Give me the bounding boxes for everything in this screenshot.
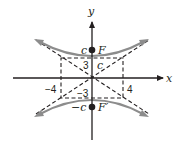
diagonal-c-label: c xyxy=(97,59,103,72)
focus-c-label-lower: −c xyxy=(71,101,86,114)
hyperbola-diagram: y x F c F′ −c c 3 −3 −4 4 xyxy=(0,0,178,145)
focus-c-label-upper: c xyxy=(81,44,87,57)
tick-label-bottom: −3 xyxy=(77,88,89,99)
lower-left-arrow-icon xyxy=(34,110,44,117)
upper-left-arrow-icon xyxy=(34,39,44,46)
focus-label-lower: F′ xyxy=(97,101,109,114)
tick-label-left: −4 xyxy=(45,84,57,95)
x-axis-label: x xyxy=(166,72,173,85)
tick-label-right: 4 xyxy=(127,84,133,95)
focus-label-upper: F xyxy=(97,44,106,57)
focus-point-lower xyxy=(89,104,96,111)
tick-label-top: 3 xyxy=(83,60,89,71)
y-axis-label: y xyxy=(87,5,95,18)
focus-point-upper xyxy=(89,47,96,54)
